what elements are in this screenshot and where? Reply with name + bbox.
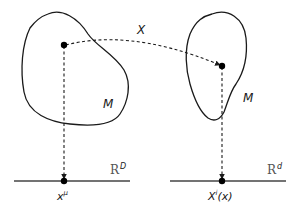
left-point-label: xμ [56,189,69,203]
right-manifold-point [219,63,225,69]
right-space-label: Rd [267,162,283,177]
left-axis-point [61,178,67,184]
right-manifold-shape [186,12,246,120]
right-manifold-label: M [243,91,254,105]
left-manifold-point [61,42,67,48]
left-space-label: RD [110,162,126,177]
right-point-label: Xi(x) [207,189,233,203]
left-manifold-label: M [103,97,114,111]
map-arrow [66,40,220,65]
map-label: X [136,23,146,37]
manifold-map-diagram: X M M RD Rd xμ Xi(x) [0,0,300,211]
right-axis-point [219,178,225,184]
